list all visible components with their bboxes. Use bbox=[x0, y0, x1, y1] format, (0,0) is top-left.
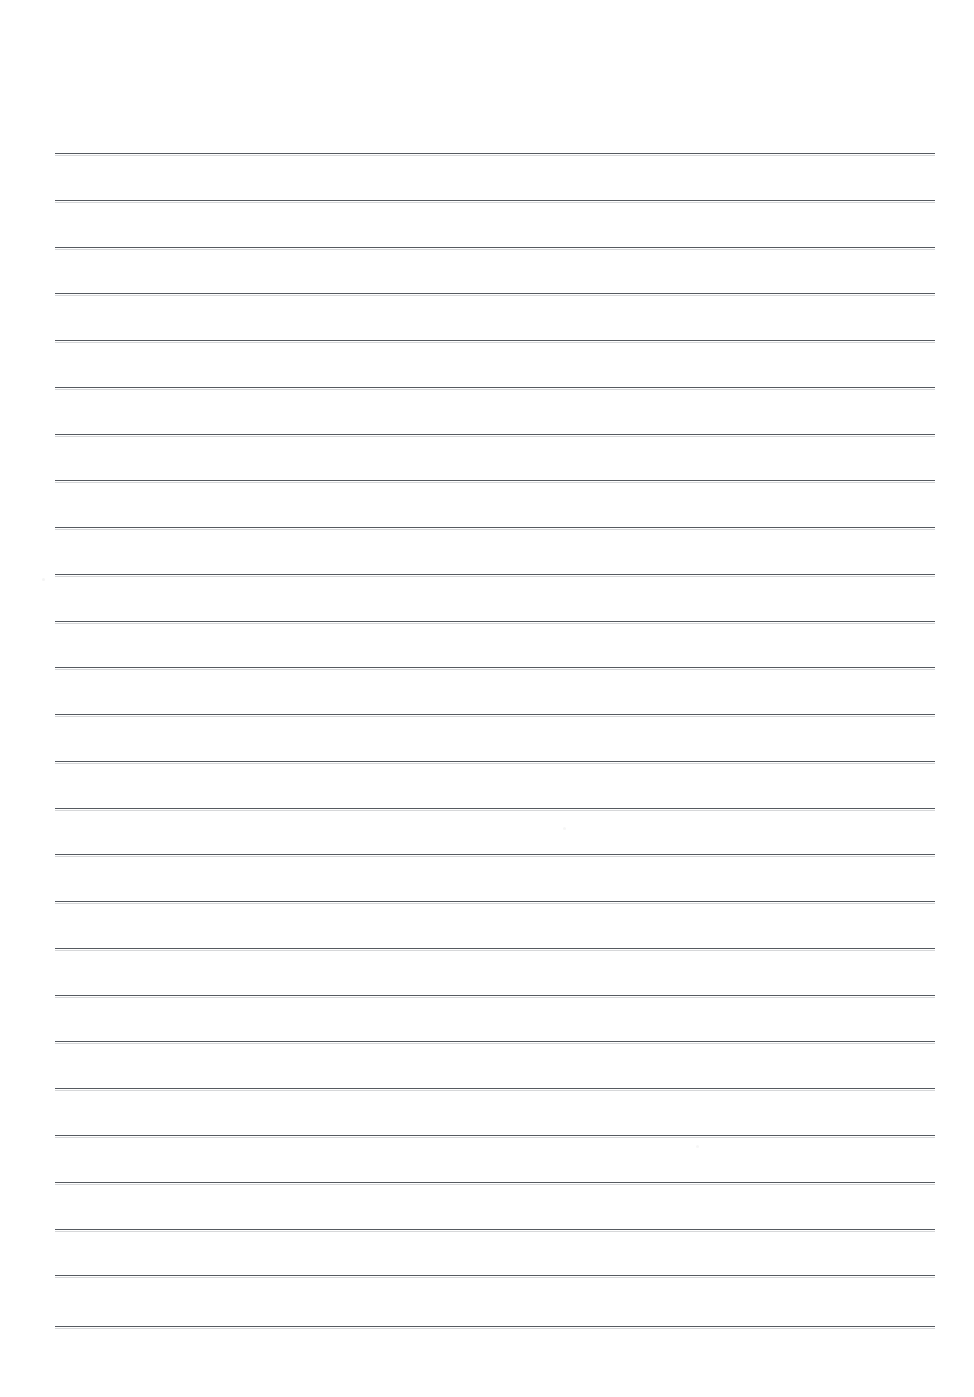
rule-line bbox=[55, 574, 935, 575]
rule-line bbox=[55, 1326, 935, 1327]
scan-speck bbox=[42, 578, 45, 581]
page-canvas bbox=[0, 0, 974, 1397]
rule-line bbox=[55, 854, 935, 855]
scan-speck bbox=[696, 1145, 699, 1148]
scan-speck bbox=[563, 827, 566, 830]
rule-line bbox=[55, 1135, 935, 1136]
rule-line bbox=[55, 621, 935, 622]
rule-line bbox=[55, 808, 935, 809]
rule-line bbox=[55, 1088, 935, 1089]
rule-line bbox=[55, 247, 935, 248]
rule-line bbox=[55, 948, 935, 949]
rule-line bbox=[55, 1275, 935, 1276]
ruled-lines-area bbox=[0, 0, 974, 1397]
rule-line bbox=[55, 153, 935, 154]
rule-line bbox=[55, 667, 935, 668]
rule-line bbox=[55, 527, 935, 528]
rule-line bbox=[55, 340, 935, 341]
rule-line bbox=[55, 1229, 935, 1230]
rule-line bbox=[55, 1041, 935, 1042]
rule-line bbox=[55, 1182, 935, 1183]
rule-line bbox=[55, 761, 935, 762]
rule-line bbox=[55, 293, 935, 294]
rule-line bbox=[55, 995, 935, 996]
rule-line bbox=[55, 901, 935, 902]
rule-line bbox=[55, 434, 935, 435]
rule-line bbox=[55, 480, 935, 481]
rule-line bbox=[55, 714, 935, 715]
rule-line bbox=[55, 387, 935, 388]
rule-line bbox=[55, 200, 935, 201]
